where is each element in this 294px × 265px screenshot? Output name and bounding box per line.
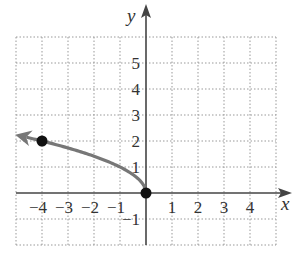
y-tick-label: 1: [132, 158, 141, 177]
x-tick-label: −3: [55, 198, 73, 217]
graph: −4−3−2−1123454321−1 x y: [0, 0, 294, 265]
y-tick-label: −1: [122, 210, 140, 229]
x-tick-label: 3: [220, 198, 229, 217]
curve: [28, 138, 146, 193]
y-tick-label: 3: [132, 106, 141, 125]
x-tick-label: 1: [168, 198, 177, 217]
data-point: [37, 136, 48, 147]
data-point: [141, 188, 152, 199]
x-axis-label: x: [280, 193, 290, 214]
y-axis-label: y: [125, 5, 136, 26]
x-tick-label: 2: [194, 198, 203, 217]
y-tick-label: 5: [132, 54, 141, 73]
y-tick-label: 4: [132, 80, 141, 99]
x-tick-label: −2: [81, 198, 99, 217]
y-tick-label: 2: [132, 132, 141, 151]
x-tick-label: −4: [29, 198, 48, 217]
x-tick-label: 4: [246, 198, 255, 217]
curve-path: [28, 138, 146, 193]
